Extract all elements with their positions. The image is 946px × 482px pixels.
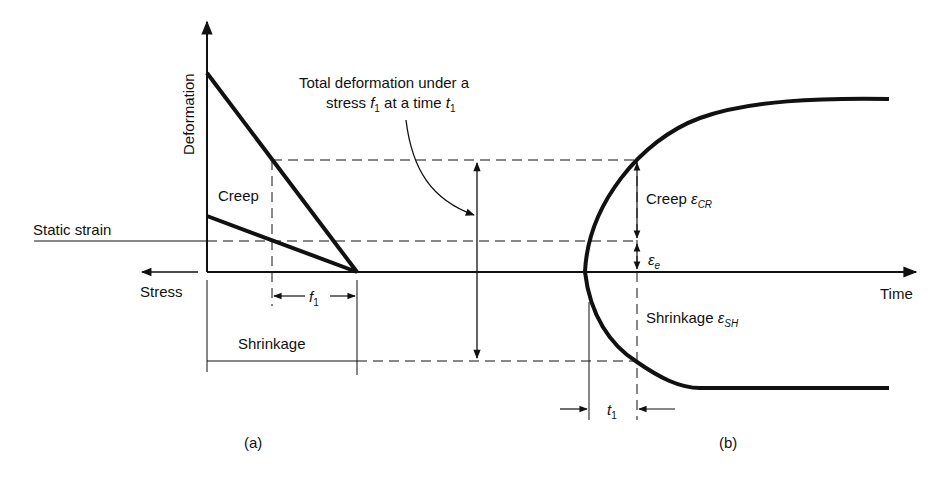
shrinkage-label-a: Shrinkage [238, 336, 306, 351]
deformation-axis-label: Deformation [181, 73, 196, 155]
static-strain-label: Static strain [33, 222, 111, 237]
annotation-line-2: stress f1 at a time t1 [326, 95, 456, 114]
elastic-strain-label: εe [648, 252, 660, 271]
stress-axis-label: Stress [140, 284, 183, 299]
diagram-canvas [0, 0, 946, 482]
annotation-curved-arrow [406, 120, 474, 215]
creep-label-a: Creep [218, 188, 259, 203]
deformation-curve-lower [585, 272, 889, 388]
caption-a: (a) [244, 435, 262, 450]
shrinkage-label-b: Shrinkage εSH [646, 310, 738, 329]
time-axis-label: Time [880, 286, 913, 301]
t1-label: t1 [607, 402, 617, 421]
annotation-line-1: Total deformation under a [299, 75, 469, 90]
f1-label: f1 [309, 289, 319, 308]
creep-label-b: Creep εCR [646, 191, 712, 210]
caption-b: (b) [719, 435, 737, 450]
deformation-curve-upper [585, 99, 889, 272]
